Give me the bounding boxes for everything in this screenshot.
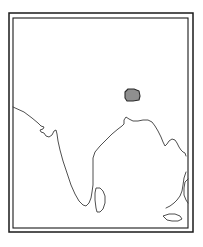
map-canvas [0, 0, 203, 247]
map-figure [0, 0, 203, 247]
shaded-study-area-polygon[interactable] [125, 89, 140, 101]
